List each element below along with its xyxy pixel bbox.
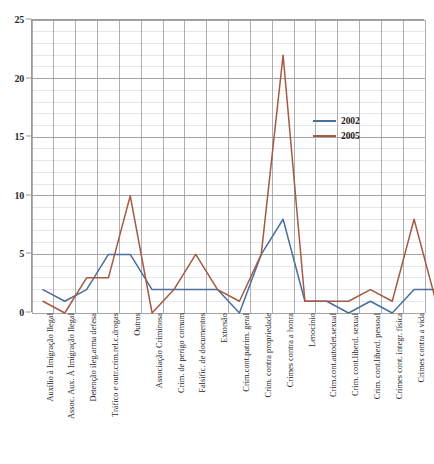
- x-axis-label-text: Associação Criminosa: [155, 313, 164, 388]
- x-axis-label: Assoc. Aux. À Imigração Ilegal: [67, 313, 76, 419]
- x-axis-label: Tráfico e outr.crim.rel.c.drogas: [111, 313, 120, 417]
- y-tick-label: 10: [14, 189, 24, 200]
- x-axis-label: Crim. cont.liberd. pessoal: [373, 313, 382, 399]
- x-axis-label-text: Crim.cont.autodet.sexual: [329, 313, 338, 397]
- x-axis-label-text: Crimes contra a honra: [286, 313, 295, 387]
- y-tick-label: 5: [19, 248, 24, 259]
- legend-color-swatch: [313, 135, 336, 137]
- x-axis-label: Crim. contra propriedade: [264, 313, 273, 397]
- x-axis-label-text: Auxílio à Imigração Ilegal: [46, 313, 55, 402]
- x-axis-label-text: Outros: [133, 313, 142, 336]
- x-axis-label: Extorsão: [220, 313, 229, 343]
- x-axis-label-text: Falsific. de documentos: [198, 313, 207, 393]
- legend-entry[interactable]: 2005: [313, 128, 383, 143]
- line-chart: 0510152025 Auxílio à Imigração IlegalAss…: [0, 0, 434, 464]
- x-axis-label-text: Crim. cont.liberd. sexual: [351, 313, 360, 396]
- x-axis-labels: Auxílio à Imigração IlegalAssoc. Aux. À …: [31, 313, 424, 464]
- x-axis-label-text: Detenção ileg.arma defesa: [89, 313, 98, 402]
- data-series-lines: [32, 20, 425, 313]
- x-axis-label: Crim.cont.autodet.sexual: [329, 313, 338, 397]
- chart-legend: 20022005: [313, 113, 383, 143]
- x-axis-label: Crim.cont.patrim. geral: [242, 313, 251, 392]
- x-axis-label: Associação Criminosa: [155, 313, 164, 388]
- x-axis-label: Crim. cont.liberd. sexual: [351, 313, 360, 396]
- x-axis-label-text: Extorsão: [220, 313, 229, 343]
- x-axis-label-text: Crim. de perigo comum: [177, 313, 186, 393]
- x-axis-label-text: Crim. contra propriedade: [264, 313, 273, 397]
- x-axis-label-text: Tráfico e outr.crim.rel.c.drogas: [111, 313, 120, 417]
- x-axis-label: Crim. de perigo comum: [177, 313, 186, 393]
- x-axis-label-text: Crim. cont.liberd. pessoal: [373, 313, 382, 399]
- x-axis-label: Auxílio à Imigração Ilegal: [46, 313, 55, 402]
- y-tick-label: 25: [14, 14, 24, 25]
- x-axis-label-text: Assoc. Aux. À Imigração Ilegal: [67, 313, 76, 419]
- x-axis-label: Crimes cont. integr. física: [395, 313, 404, 399]
- y-tick-label: 20: [14, 72, 24, 83]
- y-axis: 0510152025: [0, 0, 31, 331]
- x-axis-label: Lenocínio: [308, 313, 317, 347]
- series-line-2005: [43, 55, 434, 313]
- series-line-2002: [43, 219, 434, 313]
- x-axis-label-text: Crim.cont.patrim. geral: [242, 313, 251, 392]
- x-axis-label: Outros: [133, 313, 142, 336]
- legend-entry[interactable]: 2002: [313, 113, 383, 128]
- x-axis-label: Detenção ileg.arma defesa: [89, 313, 98, 402]
- x-axis-label: Falsific. de documentos: [198, 313, 207, 393]
- x-axis-label: Crimes contra a vida: [417, 313, 426, 383]
- x-axis-label: Crimes contra a honra: [286, 313, 295, 387]
- x-axis-label-text: Crimes cont. integr. física: [395, 313, 404, 399]
- y-tick-label: 0: [19, 307, 24, 318]
- legend-color-swatch: [313, 120, 336, 122]
- x-axis-label-text: Lenocínio: [308, 313, 317, 347]
- legend-label: 2002: [341, 116, 360, 126]
- plot-area: [31, 19, 424, 312]
- y-tick-label: 15: [14, 131, 24, 142]
- legend-label: 2005: [341, 131, 360, 141]
- x-axis-label-text: Crimes contra a vida: [417, 313, 426, 383]
